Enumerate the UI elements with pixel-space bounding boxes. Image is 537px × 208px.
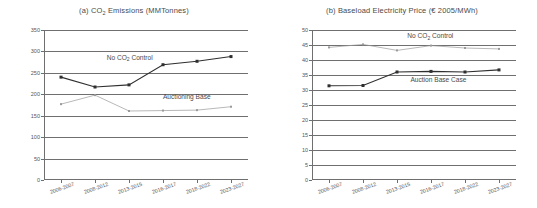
chart-a-title-prefix: (a) CO	[79, 6, 102, 15]
x-tick-mark	[499, 180, 500, 183]
series-annotation-suffix: Control	[130, 53, 153, 60]
data-point-marker	[60, 103, 62, 105]
series-annotation: No CO2 Control	[407, 32, 453, 39]
series-annotation-subscript: 2	[427, 34, 430, 40]
data-point-marker	[498, 68, 501, 71]
x-tick-mark	[61, 180, 62, 183]
series-layer	[312, 30, 516, 180]
chart-b-title-prefix: (b) Baseload Electricity Price (€ 2005/M…	[326, 6, 478, 15]
series-annotation-prefix: Auctioning Base	[163, 93, 211, 100]
y-tick-label: 10	[302, 147, 308, 153]
y-tick-mark	[41, 180, 44, 181]
data-point-marker	[464, 47, 466, 49]
data-point-marker	[430, 70, 433, 73]
y-tick-label: 20	[302, 117, 308, 123]
y-tick-label: 30	[302, 87, 308, 93]
series-annotation-subscript: 2	[127, 56, 130, 62]
y-tick-label: 150	[31, 113, 40, 119]
y-tick-label: 35	[302, 72, 308, 78]
y-tick-label: 15	[302, 132, 308, 138]
x-tick-mark	[197, 180, 198, 183]
x-tick-mark	[95, 180, 96, 183]
data-point-marker	[328, 46, 330, 48]
y-tick-label: 40	[302, 57, 308, 63]
data-point-marker	[430, 45, 432, 47]
y-tick-label: 300	[31, 48, 40, 54]
data-point-marker	[464, 71, 467, 74]
data-point-marker	[498, 48, 500, 50]
chart-panel-b: (b) Baseload Electricity Price (€ 2005/M…	[268, 0, 536, 208]
y-tick-label: 200	[31, 91, 40, 97]
chart-a-plot-area: 0501001502002503003502006-20072008-20122…	[44, 30, 248, 180]
x-tick-mark	[465, 180, 466, 183]
data-point-marker	[396, 49, 398, 51]
data-point-marker	[362, 84, 365, 87]
chart-a-title-suffix: Emissions (MMTonnes)	[106, 6, 189, 15]
data-point-marker	[162, 110, 164, 112]
y-tick-label: 5	[305, 162, 308, 168]
chart-b-title: (b) Baseload Electricity Price (€ 2005/M…	[268, 6, 536, 15]
data-point-marker	[94, 94, 96, 96]
data-point-marker	[94, 86, 97, 89]
series-line	[329, 44, 499, 50]
series-annotation: Auction Base Case	[410, 76, 466, 83]
data-point-marker	[196, 109, 198, 111]
y-tick-label: 250	[31, 70, 40, 76]
chart-a-title: (a) CO2 Emissions (MMTonnes)	[0, 6, 268, 15]
data-point-marker	[362, 43, 364, 45]
x-tick-mark	[431, 180, 432, 183]
data-point-marker	[230, 55, 233, 58]
y-tick-label: 0	[37, 177, 40, 183]
chart-a-title-subscript: 2	[103, 10, 106, 16]
x-tick-mark	[163, 180, 164, 183]
series-annotation: No CO2 Control	[107, 53, 153, 60]
series-annotation: Auctioning Base	[163, 93, 211, 100]
x-tick-mark	[129, 180, 130, 183]
x-tick-mark	[329, 180, 330, 183]
y-tick-mark	[309, 180, 312, 181]
y-tick-label: 50	[34, 156, 40, 162]
data-point-marker	[396, 71, 399, 74]
data-point-marker	[196, 60, 199, 63]
y-tick-label: 100	[31, 134, 40, 140]
y-tick-label: 350	[31, 27, 40, 33]
series-line	[61, 57, 231, 87]
chart-b-plot-area: 051015202530354045502006-20072008-201220…	[312, 30, 516, 180]
data-point-marker	[230, 106, 232, 108]
y-tick-label: 0	[305, 177, 308, 183]
data-point-marker	[328, 84, 331, 87]
x-tick-mark	[363, 180, 364, 183]
series-annotation-prefix: Auction Base Case	[410, 76, 466, 83]
data-point-marker	[128, 83, 131, 86]
data-point-marker	[60, 76, 63, 79]
y-tick-label: 25	[302, 102, 308, 108]
series-annotation-suffix: Control	[430, 32, 453, 39]
data-point-marker	[162, 63, 165, 66]
chart-panel-a: (a) CO2 Emissions (MMTonnes) 05010015020…	[0, 0, 268, 208]
x-tick-mark	[397, 180, 398, 183]
y-tick-label: 45	[302, 42, 308, 48]
series-annotation-prefix: No CO	[407, 32, 427, 39]
data-point-marker	[128, 110, 130, 112]
y-tick-label: 50	[302, 27, 308, 33]
series-annotation-prefix: No CO	[107, 53, 127, 60]
x-tick-mark	[231, 180, 232, 183]
